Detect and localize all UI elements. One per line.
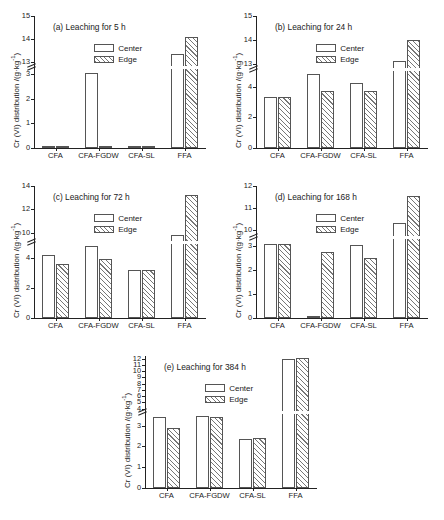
bar-b-cfa-edge (278, 97, 291, 148)
bar-c-cfa-fgdw-center (85, 246, 98, 318)
panel-title-d: (d) Leaching for 168 h (275, 193, 357, 202)
x-tick-label-c-ffa: FFA (178, 322, 192, 330)
legend-swatch-center (316, 214, 336, 222)
bar-b-cfa-center (264, 97, 277, 148)
y-tick-c-10 (31, 233, 34, 234)
legend-item-edge: Edge (316, 225, 364, 234)
legend-item-edge: Edge (205, 395, 253, 404)
legend-label-center: Center (340, 214, 364, 223)
x-tick-label-e-ffa: FFA (289, 492, 303, 500)
x-tick-label-a-cfa-fgdw: CFA-FGDW (78, 152, 119, 160)
x-axis-line-c (34, 318, 206, 319)
y-tick-e-10 (142, 371, 145, 372)
legend-item-edge: Edge (94, 55, 142, 64)
bar-c-ffa-edge (185, 195, 198, 318)
y-tick-e-6 (142, 396, 145, 397)
bar-d-ffa-center (393, 223, 406, 318)
y-tick-label-d-11: 11 (244, 204, 252, 211)
legend-label-edge: Edge (118, 225, 137, 234)
bar-a-cfa-fgdw-edge (99, 146, 112, 148)
x-axis-line-e (145, 488, 317, 489)
y-tick-c-0 (31, 318, 34, 319)
bar-a-ffa-edge (185, 37, 198, 148)
bar-b-ffa-edge (407, 40, 420, 148)
y-tick-e-11 (142, 365, 145, 366)
x-tick-label-b-cfa-fgdw: CFA-FGDW (300, 152, 341, 160)
legend-item-center: Center (94, 44, 142, 53)
y-tick-a-15 (31, 16, 34, 17)
y-tick-label-b-4: 4 (248, 83, 252, 90)
y-tick-e-1 (142, 467, 145, 468)
y-tick-d-0 (253, 318, 256, 319)
x-tick-label-b-ffa: FFA (400, 152, 414, 160)
bar-a-cfa-sl-edge (142, 146, 155, 148)
legend-swatch-edge (316, 56, 336, 64)
bar-c-ffa-center (171, 235, 184, 318)
y-tick-c-2 (31, 288, 34, 289)
y-axis-break-b (249, 66, 258, 73)
y-tick-label-d-12: 12 (244, 182, 252, 189)
legend-item-center: Center (316, 214, 364, 223)
y-axis-break-a (27, 64, 36, 71)
x-tick-label-d-cfa-fgdw: CFA-FGDW (300, 322, 341, 330)
legend-swatch-center (316, 44, 336, 52)
y-tick-e-2 (142, 446, 145, 447)
y-tick-label-e-2: 2 (137, 443, 141, 450)
legend-swatch-edge (94, 226, 114, 234)
y-tick-label-c-4: 4 (26, 254, 30, 261)
legend-swatch-edge (94, 56, 114, 64)
y-tick-label-a-15: 15 (22, 12, 30, 19)
y-tick-label-a-14: 14 (22, 35, 30, 42)
y-tick-label-d-1: 1 (248, 290, 252, 297)
panel-title-c: (c) Leaching for 72 h (53, 193, 130, 202)
legend-c: Center Edge (94, 214, 142, 237)
legend-item-center: Center (316, 44, 364, 53)
y-axis-line-a (34, 16, 35, 148)
x-tick-label-a-cfa-sl: CFA-SL (128, 152, 155, 160)
bar-c-cfa-fgdw-edge (99, 259, 112, 318)
x-tick-label-b-cfa-sl: CFA-SL (350, 152, 377, 160)
bar-b-cfa-fgdw-center (307, 74, 320, 148)
legend-d: Center Edge (316, 214, 364, 237)
legend-label-center: Center (229, 384, 253, 393)
panel-b: 024131415CFACFA-FGDWCFA-SLFFA(b) Leachin… (256, 16, 428, 148)
y-tick-a-2 (31, 99, 34, 100)
x-tick-label-d-cfa: CFA (270, 322, 285, 330)
x-tick-label-e-cfa: CFA (159, 492, 174, 500)
y-tick-d-10 (253, 230, 256, 231)
x-tick-label-c-cfa: CFA (48, 322, 63, 330)
legend-swatch-center (205, 384, 225, 392)
y-tick-label-d-0: 0 (248, 314, 252, 321)
x-tick-label-d-cfa-sl: CFA-SL (350, 322, 377, 330)
legend-label-center: Center (340, 44, 364, 53)
y-tick-c-4 (31, 258, 34, 259)
x-tick-label-a-cfa: CFA (48, 152, 63, 160)
x-tick-label-e-cfa-fgdw: CFA-FGDW (189, 492, 230, 500)
legend-label-edge: Edge (340, 55, 359, 64)
y-axis-line-d (256, 186, 257, 318)
y-axis-line-e (145, 356, 146, 488)
legend-item-center: Center (205, 384, 253, 393)
x-axis-line-b (256, 148, 428, 149)
bar-e-cfa-fgdw-center (196, 416, 209, 488)
y-tick-label-c-0: 0 (26, 314, 30, 321)
y-tick-c-14 (31, 186, 34, 187)
y-tick-a-1 (31, 123, 34, 124)
y-axis-label-b: Cr (VI) distribution /(g·kg-1) (231, 53, 243, 148)
x-tick-label-d-ffa: FFA (400, 322, 414, 330)
y-axis-label-e: Cr (VI) distribution /(g·kg-1) (120, 393, 132, 488)
bar-d-cfa-sl-center (350, 245, 363, 318)
y-tick-label-a-1: 1 (26, 120, 30, 127)
legend-label-edge: Edge (229, 395, 248, 404)
panel-c: 024101214CFACFA-FGDWCFA-SLFFA(c) Leachin… (34, 186, 206, 318)
y-tick-a-3 (31, 74, 34, 75)
legend-e: Center Edge (205, 384, 253, 407)
y-tick-label-c-14: 14 (22, 182, 30, 189)
y-tick-c-12 (31, 209, 34, 210)
bar-d-cfa-center (264, 244, 277, 318)
x-tick-label-b-cfa: CFA (270, 152, 285, 160)
bar-e-cfa-sl-center (239, 439, 252, 488)
legend-label-center: Center (118, 44, 142, 53)
y-axis-label-d: Cr (VI) distribution /(g·kg-1) (231, 223, 243, 318)
y-axis-break-c (27, 239, 36, 246)
